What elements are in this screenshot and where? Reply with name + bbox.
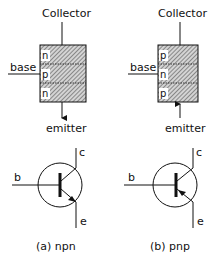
npn-layer-bottom: n xyxy=(42,88,48,99)
npn-layer-top: n xyxy=(42,50,48,61)
npn-caption: (a) npn xyxy=(36,240,76,253)
npn-base-label: base xyxy=(10,61,36,74)
npn-symbol: c b e xyxy=(12,146,87,228)
pnp-c-label: c xyxy=(196,146,202,159)
pnp-layer-top: p xyxy=(160,50,166,61)
pnp-layer-bottom: p xyxy=(160,88,166,99)
pnp-collector-label: Collector xyxy=(158,7,207,20)
npn-e-label: e xyxy=(80,215,87,228)
pnp-symbol: c b e xyxy=(124,146,204,228)
npn-block-diagram: Collector n p n base emitter xyxy=(8,7,91,135)
pnp-layer-middle: n xyxy=(160,69,166,80)
npn-collector-label: Collector xyxy=(42,7,91,20)
pnp-caption: (b) pnp xyxy=(150,240,190,253)
transistor-diagram: Collector n p n base emitter Collector p… xyxy=(0,0,212,255)
pnp-emitter-label: emitter xyxy=(165,122,206,135)
pnp-base-label: base xyxy=(130,61,156,74)
npn-emitter-label: emitter xyxy=(46,122,87,135)
pnp-e-label: e xyxy=(197,215,204,228)
npn-layer-middle: p xyxy=(42,69,48,80)
npn-emitter-arrow-icon xyxy=(68,196,76,202)
npn-b-label: b xyxy=(14,171,21,184)
npn-c-label: c xyxy=(79,146,85,159)
pnp-block-diagram: Collector p n p base emitter xyxy=(128,7,207,135)
npn-collector-line xyxy=(61,168,76,181)
pnp-b-label: b xyxy=(128,171,135,184)
pnp-collector-line xyxy=(177,168,193,181)
